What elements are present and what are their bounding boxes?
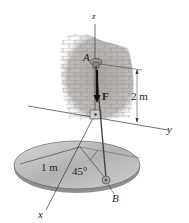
support-B [102, 176, 110, 184]
y-axis-label: y [167, 124, 172, 135]
height-2m-label: 2 m [131, 91, 148, 102]
force-F-label: F [102, 91, 109, 102]
x-axis-label: x [38, 209, 43, 220]
radius-1m-label: 1 m [41, 162, 58, 173]
diagram-graphics [0, 0, 189, 223]
z-axis-label: z [92, 12, 96, 21]
point-A-label: A [83, 52, 90, 63]
point-B-label: B [112, 193, 119, 204]
statics-figure: z y x A B F 2 m 1 m 45° [0, 0, 189, 223]
angle-45-label: 45° [72, 166, 87, 177]
